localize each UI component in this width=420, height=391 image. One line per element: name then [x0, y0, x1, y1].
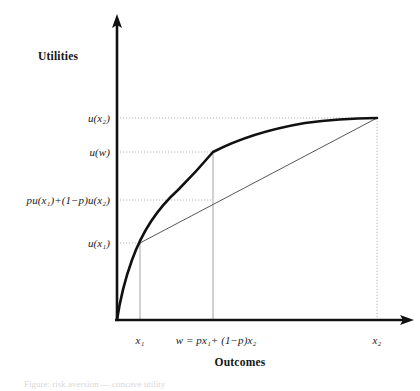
y-tick-label-u-w: u(w) [0, 146, 110, 158]
y-tick-text-u-x2: u(x₂) [88, 112, 110, 124]
y-tick-label-u-x2: u(x₂) [0, 112, 110, 124]
y-tick-text-u-w: u(w) [89, 146, 110, 158]
y-tick-label-expected-utility: pu(x₁)+(1−p)u(x₂) [0, 194, 110, 206]
x-axis-title: Outcomes [215, 356, 266, 368]
x-tick-label-x2: x₂ [373, 334, 382, 346]
y-axis-title: Utilities [38, 50, 78, 62]
expected-utility-chord [140, 118, 377, 243]
figure-caption-clipped: Figure: risk aversion — concave utility [24, 379, 165, 391]
y-tick-text-expected-utility: pu(x₁)+(1−p)u(x₂) [27, 194, 110, 206]
figure-canvas: Utilities u(x₂) u(w) pu(x₁)+(1−p)u(x₂) u… [0, 0, 420, 391]
axes [112, 14, 414, 325]
y-tick-text-u-x1: u(x₁) [88, 237, 110, 249]
utility-curve [117, 118, 377, 320]
vertical-guides [140, 118, 377, 320]
y-tick-label-u-x1: u(x₁) [0, 237, 110, 249]
x-tick-label-x1: x₁ [136, 334, 145, 346]
x-tick-label-w: w = px₁+ (1−p)x₂ [176, 334, 257, 346]
